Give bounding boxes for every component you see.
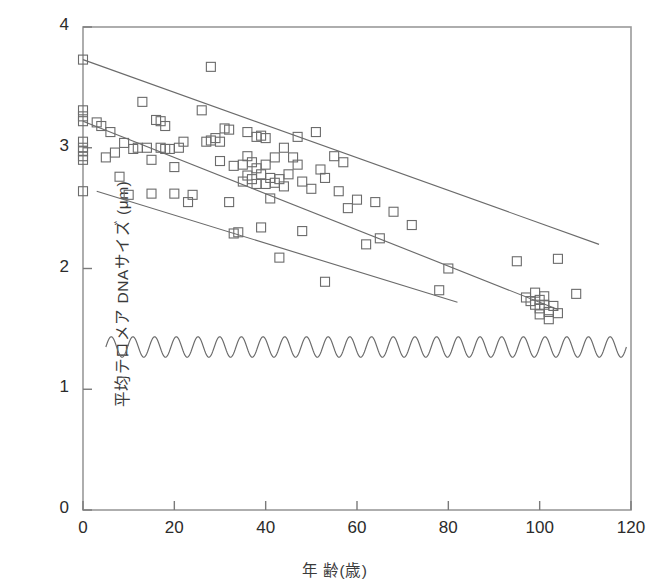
data-point [261,160,270,169]
y-tick-label: 4 [37,15,69,35]
data-point [311,128,320,137]
data-point [225,198,234,207]
data-point [307,184,316,193]
y-tick-label: 3 [37,136,69,156]
data-point [279,143,288,152]
data-point [216,157,225,166]
data-point [389,207,398,216]
data-point [339,158,348,167]
data-point [535,310,544,319]
data-point [120,138,129,147]
data-point [229,161,238,170]
data-point [206,62,215,71]
data-point [371,198,380,207]
data-point [362,240,371,249]
plot-frame [83,27,631,510]
data-point [138,97,147,106]
data-point [343,204,352,213]
data-point [512,257,521,266]
regression-lines [83,60,599,310]
data-point [330,152,339,161]
data-point [572,289,581,298]
lower-bound-line [97,191,458,302]
x-tick-label: 0 [58,518,108,538]
data-point [115,172,124,181]
chart-figure: 平均テロメア DNAサイズ (μm) 年 齢(歳) 02040608010012… [0,0,669,588]
data-point [147,189,156,198]
x-tick-label: 20 [149,518,199,538]
data-point [298,227,307,236]
data-point [170,189,179,198]
sinusoidal-break-line [106,337,627,357]
data-point [270,153,279,162]
data-point [243,128,252,137]
data-point [553,254,562,263]
data-point [353,195,362,204]
data-point [257,223,266,232]
x-tick-label: 120 [606,518,656,538]
data-point [334,187,343,196]
data-point [197,106,206,115]
data-point [316,165,325,174]
data-point [321,173,330,182]
data-point [170,163,179,172]
y-tick-label: 2 [37,257,69,277]
data-point [124,190,133,199]
data-point [101,153,110,162]
data-point [147,155,156,164]
data-points [79,55,581,324]
x-tick-label: 40 [241,518,291,538]
data-point [298,177,307,186]
x-tick-label: 80 [423,518,473,538]
data-point [238,160,247,169]
scatter-plot [0,0,669,588]
axis-ticks [83,27,631,510]
x-tick-label: 60 [332,518,382,538]
data-point [435,286,444,295]
x-tick-label: 100 [515,518,565,538]
y-tick-label: 0 [37,498,69,518]
data-point [275,253,284,262]
data-point [284,170,293,179]
data-point [321,277,330,286]
data-point [407,221,416,230]
y-tick-label: 1 [37,377,69,397]
data-point [110,148,119,157]
